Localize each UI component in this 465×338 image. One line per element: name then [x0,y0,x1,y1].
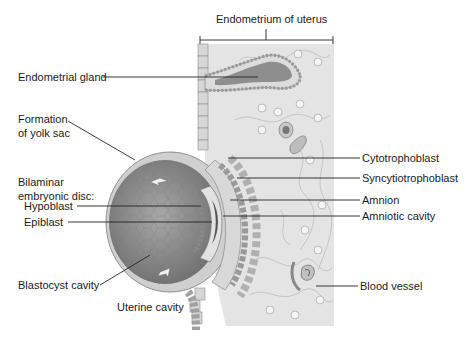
label-amnion: Amnion [362,194,399,207]
label-uterine-cavity: Uterine cavity [117,301,184,314]
label-endometrium-of-uterus: Endometrium of uterus [216,13,327,26]
label-endometrial-gland: Endometrial gland [18,71,107,84]
endometrium-bracket [200,29,333,44]
label-cytotrophoblast: Cytotrophoblast [362,152,439,165]
label-formation-line1: Formation [18,113,68,126]
label-syncytiotrophoblast: Syncytiotrophoblast [362,172,458,185]
label-blood-vessel: Blood vessel [360,280,422,293]
label-hypoblast: Hypoblast [24,200,73,213]
label-blastocyst-cavity: Blastocyst cavity [18,279,99,292]
label-amniotic-cavity: Amniotic cavity [362,210,435,223]
label-formation-line2: of yolk sac [18,127,70,140]
label-bilaminar-line1: Bilaminar [18,176,64,189]
implantation-diagram: Endometrium of uterus Endometrial gland … [0,0,465,338]
label-epiblast: Epiblast [24,216,63,229]
